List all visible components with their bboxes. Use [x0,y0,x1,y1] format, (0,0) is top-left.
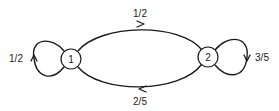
state-diagram: 1 2 1/2 1/2 3/5 2/5 [0,0,279,111]
edge-1-self-loop [34,41,64,76]
edge-2-to-1-label: 2/5 [133,96,147,107]
edge-1-to-2 [78,30,202,51]
edge-2-self-loop [215,39,247,74]
node-1: 1 [61,49,81,69]
node-1-label: 1 [68,54,74,65]
edge-2-self-loop-label: 3/5 [255,52,269,63]
node-2: 2 [198,47,218,67]
edge-1-to-2-label: 1/2 [133,8,147,19]
node-2-label: 2 [205,52,211,63]
arrow-right-icon [137,21,144,27]
edge-1-self-loop-label: 1/2 [9,53,23,64]
edge-2-to-1 [78,64,202,87]
